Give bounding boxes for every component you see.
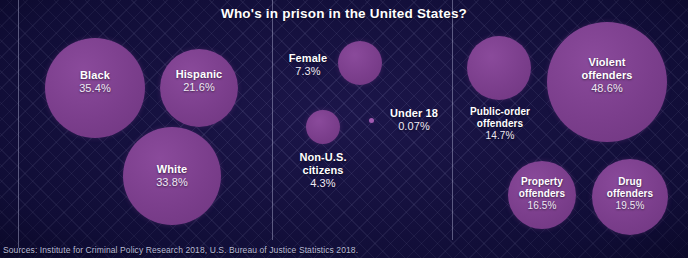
label-violent-name-line2: offenders [547, 69, 667, 82]
label-black: Black 35.4% [45, 69, 145, 95]
label-violent-name-line1: Violent [547, 56, 667, 69]
label-violent-offenders: Violent offenders 48.6% [547, 56, 667, 95]
label-black-value: 35.4% [45, 82, 145, 95]
page-title: Who's in prison in the United States? [0, 6, 688, 21]
label-female-name: Female [278, 52, 338, 65]
label-hispanic: Hispanic 21.6% [155, 68, 243, 94]
label-public-order-name-line2: offenders [455, 118, 545, 130]
label-property-offenders: Property offenders 16.5% [503, 176, 581, 211]
bubble-female [338, 41, 382, 85]
label-white-name: White [123, 163, 221, 176]
label-public-order-value: 14.7% [455, 130, 545, 142]
label-under-18-value: 0.07% [378, 120, 450, 133]
label-drug-value: 19.5% [592, 200, 668, 212]
label-under-18: Under 18 0.07% [378, 107, 450, 133]
label-hispanic-value: 21.6% [155, 81, 243, 94]
label-female: Female 7.3% [278, 52, 338, 78]
label-public-order-name-line1: Public-order [455, 106, 545, 118]
label-drug-offenders: Drug offenders 19.5% [592, 176, 668, 211]
divider-middle [272, 0, 273, 240]
label-under-18-name: Under 18 [378, 107, 450, 120]
source-note: Sources: Institute for Criminal Policy R… [3, 245, 358, 255]
label-violent-value: 48.6% [547, 82, 667, 95]
divider-left [18, 0, 19, 248]
divider-right [452, 0, 453, 240]
bubble-public-order-offenders [467, 36, 531, 100]
label-non-us-citizens-name-line1: Non-U.S. [281, 151, 365, 164]
label-drug-name-line2: offenders [592, 188, 668, 200]
label-non-us-citizens-name-line2: citizens [281, 164, 365, 177]
bubble-non-us-citizens [306, 110, 340, 144]
label-non-us-citizens-value: 4.3% [281, 177, 365, 190]
label-non-us-citizens: Non-U.S. citizens 4.3% [281, 151, 365, 190]
infographic-panel: Who's in prison in the United States? Bl… [0, 0, 688, 258]
label-white: White 33.8% [123, 163, 221, 189]
label-property-name-line2: offenders [503, 188, 581, 200]
label-drug-name-line1: Drug [592, 176, 668, 188]
label-female-value: 7.3% [278, 65, 338, 78]
label-hispanic-name: Hispanic [155, 68, 243, 81]
label-public-order-offenders: Public-order offenders 14.7% [455, 106, 545, 141]
label-white-value: 33.8% [123, 176, 221, 189]
label-property-name-line1: Property [503, 176, 581, 188]
label-property-value: 16.5% [503, 200, 581, 212]
label-black-name: Black [45, 69, 145, 82]
bubble-under-18 [369, 118, 374, 123]
